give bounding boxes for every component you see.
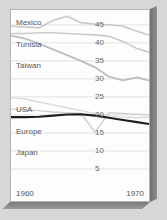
x-axis-end-label: 1970 (126, 189, 144, 198)
series-label-tunisia: Tunisia (16, 40, 42, 49)
series-label-mexico: Mexico (16, 18, 41, 27)
y-tick-5: 5 (95, 164, 99, 173)
y-tick-10: 10 (95, 146, 104, 155)
y-tick-45: 45 (95, 20, 104, 29)
series-label-taiwan: Taiwan (16, 61, 41, 70)
series-line-japan (11, 114, 150, 124)
y-tick-35: 35 (95, 56, 104, 65)
y-tick-30: 30 (95, 74, 104, 83)
plot-3d-shell: 51015202530354045 MexicoTunisiaTaiwanUSA… (10, 9, 150, 202)
y-tick-40: 40 (95, 38, 104, 47)
y-tick-15: 15 (95, 128, 104, 137)
series-label-usa: USA (16, 105, 32, 114)
plot-area: 51015202530354045 MexicoTunisiaTaiwanUSA… (10, 9, 150, 202)
series-label-japan: Japan (16, 148, 38, 157)
bevel-bottom-face (2, 202, 150, 209)
series-label-europe: Europe (16, 127, 42, 136)
line-chart-figure: 51015202530354045 MexicoTunisiaTaiwanUSA… (0, 0, 167, 220)
x-axis-start-label: 1960 (16, 189, 34, 198)
bevel-right-face (150, 6, 157, 202)
y-tick-25: 25 (95, 92, 104, 101)
y-tick-20: 20 (95, 110, 104, 119)
